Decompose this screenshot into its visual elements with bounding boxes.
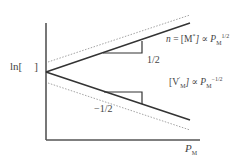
exp-sup: −1/2 bbox=[212, 76, 223, 82]
ln-text: ln bbox=[10, 60, 19, 72]
v-text: [V bbox=[169, 77, 179, 87]
prime-sup: ' bbox=[179, 76, 180, 82]
x-axis-label: PM bbox=[185, 143, 197, 154]
y-axis-label: ln[] bbox=[10, 61, 38, 72]
lower-slope-label: −1/2 bbox=[94, 104, 112, 114]
exp-sup: 1/2 bbox=[222, 33, 230, 39]
prop-text: ] ∝ P bbox=[185, 77, 206, 87]
prop-text: ] ∝ P bbox=[195, 34, 216, 44]
bracket-open: [ bbox=[19, 60, 23, 72]
upper-slope-label: 1/2 bbox=[147, 55, 160, 65]
upper-solid-line bbox=[46, 23, 190, 72]
lower-curve-label: [V'M] ∝ PM−1/2 bbox=[169, 78, 223, 88]
m-sub-2: M bbox=[206, 83, 211, 89]
p-symbol: P bbox=[185, 142, 192, 154]
m-sub: M bbox=[192, 150, 197, 156]
bracket-close: ] bbox=[34, 60, 38, 72]
lower-dotted-line bbox=[48, 83, 190, 130]
eq-text: = [M bbox=[171, 34, 193, 44]
m-sub: M bbox=[216, 40, 221, 46]
upper-curve-label: n = [M*] ∝ PM1/2 bbox=[166, 35, 229, 45]
